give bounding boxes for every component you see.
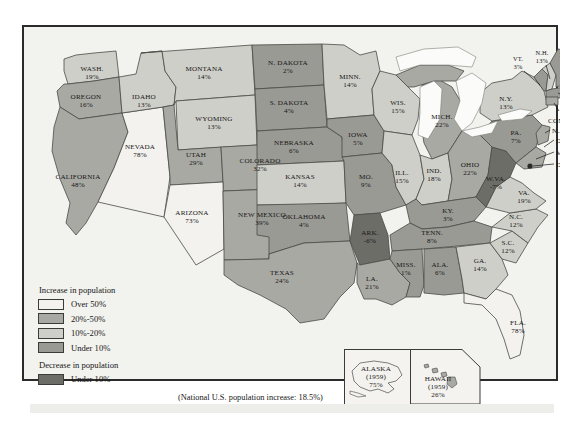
label-oregon-value: 16% xyxy=(79,101,93,109)
label-texas-value: 24% xyxy=(275,277,289,285)
alaska-hawaii-inset: ALASKA (1959) 75% HAWAII (1959) 26% xyxy=(344,349,481,405)
label-iowa-name: IOWA xyxy=(348,131,368,139)
page-scan-band xyxy=(30,404,554,413)
legend-row-over50[interactable]: Over 50% xyxy=(38,297,163,312)
label-florida-name: FLA. xyxy=(510,319,526,327)
label-westvirginia-name: W.VA. xyxy=(486,175,506,183)
label-northcarolina-value: 12% xyxy=(509,221,523,229)
label-mississippi-name: MISS. xyxy=(396,261,415,269)
label-missouri-value: 9% xyxy=(361,181,371,189)
inset-state-hawaii-kauai[interactable] xyxy=(424,364,429,368)
label-vermont-value: 3% xyxy=(514,63,523,70)
label-sdakota-value: 4% xyxy=(284,107,294,115)
legend-swatch-over50 xyxy=(38,299,64,310)
label-wyoming-value: 13% xyxy=(207,123,221,131)
label-newyork-value: 13% xyxy=(499,103,513,111)
label-wyoming-name: WYOMING xyxy=(195,115,232,123)
label-newjersey: N.J. 25% xyxy=(552,127,560,135)
label-kansas-value: 14% xyxy=(293,181,307,189)
legend-swatch-under10 xyxy=(38,342,64,353)
national-increase-note: (National U.S. population increase: 18.5… xyxy=(178,393,323,402)
inset-label-alaska-value: 75% xyxy=(369,381,383,389)
label-indiana-name: IND. xyxy=(426,167,441,175)
label-montana-value: 14% xyxy=(197,73,211,81)
label-nebraska-value: 6% xyxy=(289,147,299,155)
legend-increase-title: Increase in population xyxy=(39,285,163,295)
label-maryland: MD. 32% xyxy=(556,149,560,157)
label-iowa-value: 5% xyxy=(353,139,363,147)
label-california-name: CALIFORNIA xyxy=(56,173,102,181)
legend-swatch-decrease-under10 xyxy=(38,374,64,385)
legend-decrease-title: Decrease in population xyxy=(39,360,163,370)
label-virginia-name: VA. xyxy=(518,189,530,197)
label-illinois-value: 15% xyxy=(395,177,409,185)
label-arizona-value: 73% xyxy=(185,217,199,225)
legend-label-over50: Over 50% xyxy=(71,299,106,309)
label-newmexico-value: 39% xyxy=(255,219,269,227)
label-minnesota-value: 14% xyxy=(343,81,357,89)
legend-swatch-20-50 xyxy=(38,313,64,324)
label-westvirginia-value: -7% xyxy=(490,183,502,191)
label-maine-name: ME. xyxy=(559,51,560,59)
label-arkansas-value: -6% xyxy=(364,237,376,245)
figure-root: WASH. 19% OREGON 16% IDAHO 13% MONTANA 1… xyxy=(0,0,581,421)
map-legend: Increase in population Over 50% 20%-50% … xyxy=(38,285,163,387)
label-ohio-value: 22% xyxy=(463,169,477,177)
inset-label-hawaii-value: 26% xyxy=(431,391,445,399)
label-pennsylvania-name: PA. xyxy=(511,129,522,137)
inset-label-hawaii-name: HAWAII xyxy=(425,375,452,383)
label-northcarolina-name: N.C. xyxy=(509,213,523,221)
inset-label-hawaii-year: (1959) xyxy=(428,383,449,391)
label-ndakota-value: 2% xyxy=(283,67,293,75)
state-connecticut[interactable] xyxy=(546,97,558,105)
label-colorado-value: 32% xyxy=(253,165,267,173)
inset-label-alaska-year: (1959) xyxy=(366,373,387,381)
label-kansas-name: KANSAS xyxy=(285,173,315,181)
label-alabama-name: ALA. xyxy=(431,261,448,269)
legend-row-20-50[interactable]: 20%-50% xyxy=(38,312,163,327)
label-utah-name: UTAH xyxy=(186,151,206,159)
map-figure-frame: WASH. 19% OREGON 16% IDAHO 13% MONTANA 1… xyxy=(22,25,558,381)
label-utah-value: 29% xyxy=(189,159,203,167)
label-tennessee-name: TENN. xyxy=(421,229,443,237)
label-kentucky-name: KY. xyxy=(442,207,454,215)
label-louisiana-name: LA. xyxy=(366,275,378,283)
label-montana-name: MONTANA xyxy=(185,65,223,73)
inset-label-alaska-name: ALASKA xyxy=(361,365,392,373)
legend-row-under10[interactable]: Under 10% xyxy=(38,341,163,356)
label-oklahoma-name: OKLAHOMA xyxy=(283,213,327,221)
label-virginia-value: 19% xyxy=(517,197,531,205)
label-oregon-name: OREGON xyxy=(71,93,102,101)
label-alabama-value: 6% xyxy=(435,269,445,277)
label-missouri-name: MO. xyxy=(359,173,373,181)
label-florida-value: 78% xyxy=(511,327,525,335)
label-idaho-name: IDAHO xyxy=(132,93,156,101)
label-ohio-name: OHIO xyxy=(461,161,480,169)
label-nevada-name: NEVADA xyxy=(125,143,156,151)
label-illinois-name: ILL. xyxy=(395,169,409,177)
label-southcarolina-value: 12% xyxy=(501,247,515,255)
inset-state-hawaii-oahu[interactable] xyxy=(432,368,438,373)
label-pennsylvania-value: 7% xyxy=(511,137,521,145)
state-dc-marker[interactable] xyxy=(527,163,532,168)
label-michigan-name: MICH. xyxy=(431,113,452,121)
label-colorado-name: COLORADO xyxy=(239,157,280,165)
label-michigan-value: 22% xyxy=(435,121,449,129)
label-minnesota-name: MINN. xyxy=(339,73,361,81)
label-newyork-name: N.Y. xyxy=(499,95,513,103)
label-arizona-name: ARIZONA xyxy=(175,209,209,217)
legend-row-decrease-under10[interactable]: Under 10% xyxy=(38,372,163,387)
label-tennessee-value: 8% xyxy=(427,237,437,245)
label-louisiana-value: 21% xyxy=(365,283,379,291)
label-southcarolina-name: S.C. xyxy=(501,239,514,247)
label-georgia-value: 14% xyxy=(473,265,487,273)
label-georgia-name: GA. xyxy=(474,257,487,265)
label-connecticut: CONN. 26% xyxy=(548,117,560,125)
label-mississippi-value: 1% xyxy=(401,269,411,277)
label-wisconsin-name: WIS. xyxy=(390,99,406,107)
label-sdakota-name: S. DAKOTA xyxy=(270,99,309,107)
label-oklahoma-value: 4% xyxy=(299,221,309,229)
label-dc: D.C. -4% xyxy=(556,161,560,169)
label-idaho-value: 13% xyxy=(137,101,151,109)
legend-row-10-20[interactable]: 10%-20% xyxy=(38,326,163,341)
